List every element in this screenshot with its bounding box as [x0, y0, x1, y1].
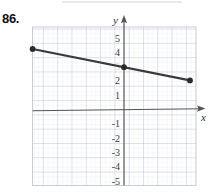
y-tick-label-2: 2	[110, 76, 120, 86]
coordinate-graph: 5 4 3 2 1 -1 -2 -3 -4 -5 y x	[0, 0, 213, 193]
data-point-y-intercept	[121, 64, 127, 70]
data-point-right-endpoint	[187, 78, 193, 84]
y-tick-label-5: 5	[110, 34, 120, 44]
y-tick-label-neg5: -5	[105, 177, 120, 187]
y-tick-label-neg3: -3	[105, 148, 120, 158]
figure-root: 86.	[0, 0, 213, 193]
y-tick-label-neg4: -4	[105, 162, 120, 172]
data-point-left-endpoint	[30, 46, 36, 52]
x-axis-label: x	[201, 112, 206, 123]
y-tick-label-neg1: -1	[105, 119, 120, 129]
y-tick-label-3: 3	[110, 62, 120, 72]
y-tick-label-4: 4	[110, 48, 120, 58]
y-tick-label-1: 1	[110, 91, 120, 101]
y-axis-label: y	[113, 15, 118, 26]
y-tick-label-neg2: -2	[105, 134, 120, 144]
